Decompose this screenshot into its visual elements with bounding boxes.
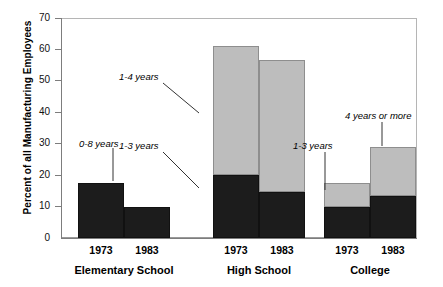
annotation-1-3-years-college: 1-3 years: [293, 140, 333, 151]
annotation-1-4-years: 1-4 years: [119, 71, 159, 82]
x-year-label-elementary-school-1983: 1983: [117, 244, 177, 256]
bar-segment-4-years-or-more: [324, 183, 370, 207]
annotation-0-8-years: 0-8 years: [79, 138, 119, 149]
bar-segment-1-3-years: [259, 192, 305, 238]
x-axis-line: [61, 238, 417, 239]
bar-segment-1-4-years: [213, 46, 259, 175]
bar-high-school-1973: [213, 46, 259, 238]
y-tick-50: [55, 80, 61, 81]
y-tick-40: [55, 112, 61, 113]
bar-chart: Percent of all Manufacturing Employees 7…: [0, 0, 443, 287]
y-tick-label-60: 60: [10, 44, 50, 54]
bar-segment-1-3-years: [324, 207, 370, 238]
bar-segment-4-years-or-more: [370, 147, 416, 196]
bar-segment-0-8-years: [78, 183, 124, 238]
x-year-label-college-1983: 1983: [363, 244, 423, 256]
annotation-4-years-or-more: 4 years or more: [345, 110, 412, 121]
bar-segment-1-4-years: [259, 60, 305, 192]
y-tick-label-30: 30: [10, 138, 50, 148]
y-tick-20: [55, 175, 61, 176]
y-tick-label-0: 0: [10, 233, 50, 243]
annotation-1-3-years-highschool: 1-3 years: [119, 140, 159, 151]
bar-elementary-school-1973: [78, 183, 124, 238]
bar-segment-1-3-years: [370, 196, 416, 238]
bar-college-1973: [324, 183, 370, 238]
y-tick-label-40: 40: [10, 107, 50, 117]
y-axis-line: [61, 18, 62, 239]
bar-segment-1-3-years: [213, 175, 259, 238]
y-tick-70: [55, 18, 61, 19]
bar-segment-0-8-years: [124, 207, 170, 238]
y-tick-label-20: 20: [10, 170, 50, 180]
y-tick-label-10: 10: [10, 201, 50, 211]
y-axis-title: Percent of all Manufacturing Employees: [22, 3, 33, 233]
x-year-label-high-school-1983: 1983: [252, 244, 312, 256]
y-tick-label-70: 70: [10, 13, 50, 23]
y-tick-60: [55, 49, 61, 50]
y-tick-label-50: 50: [10, 75, 50, 85]
x-group-label-college: College: [290, 264, 443, 276]
bar-college-1983: [370, 147, 416, 238]
bar-elementary-school-1983: [124, 207, 170, 238]
y-tick-30: [55, 143, 61, 144]
y-tick-10: [55, 206, 61, 207]
